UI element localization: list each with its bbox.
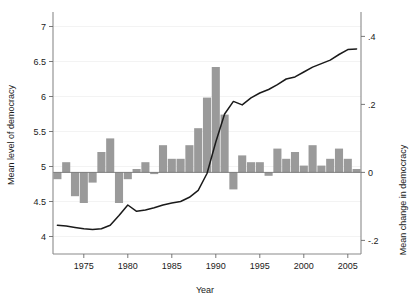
bottom-tick-label: 1985 [162,261,182,271]
right-axis-title: Mean change in democracy [398,144,408,255]
bar [159,145,167,172]
left-tick-label: 7 [41,22,46,32]
left-tick-label: 6.5 [33,57,46,67]
bar [212,67,220,172]
bar [97,152,105,172]
bar [133,169,141,172]
bar [124,172,132,179]
left-tick-label: 4 [41,232,46,242]
bar [238,155,246,172]
right-tick-label: .4 [368,32,376,42]
bar [106,138,114,172]
left-axis-title: Mean level of democracy [6,84,16,185]
left-tick-label: 5.5 [33,127,46,137]
bar [291,152,299,172]
bar [247,162,255,172]
bar [300,166,308,173]
bar [353,169,361,172]
bar [89,172,97,182]
right-tick-label: -.2 [368,236,379,246]
left-tick-label: 4.5 [33,197,46,207]
bottom-tick-label: 2005 [338,261,358,271]
bar [80,172,88,203]
bottom-tick-label: 1975 [74,261,94,271]
bar [53,172,61,179]
bar [282,159,290,173]
bar [62,162,70,172]
democracy-trend-chart: 44.555.566.57 -.20.2.4 19751980198519901… [0,0,416,300]
right-tick-label: 0 [368,168,373,178]
chart-figure: 44.555.566.57 -.20.2.4 19751980198519901… [0,0,416,300]
right-tick-label: .2 [368,100,376,110]
bar [168,159,176,173]
bar [256,162,264,172]
bar [309,145,317,172]
bar [273,149,281,173]
bar [317,166,325,173]
bar [335,149,343,173]
bar [71,172,79,196]
bottom-tick-label: 1980 [118,261,138,271]
bottom-tick-label: 1995 [250,261,270,271]
bottom-tick-label: 1990 [206,261,226,271]
bar [177,159,185,173]
bar [115,172,123,203]
bar [141,162,149,172]
bottom-axis-title: Year [196,285,214,295]
bar [344,159,352,173]
left-tick-label: 6 [41,92,46,102]
left-tick-label: 5 [41,162,46,172]
bar [229,172,237,189]
bar [194,128,202,172]
bar [185,145,193,172]
bar [265,172,273,175]
bar [326,159,334,173]
bottom-tick-label: 2000 [294,261,314,271]
